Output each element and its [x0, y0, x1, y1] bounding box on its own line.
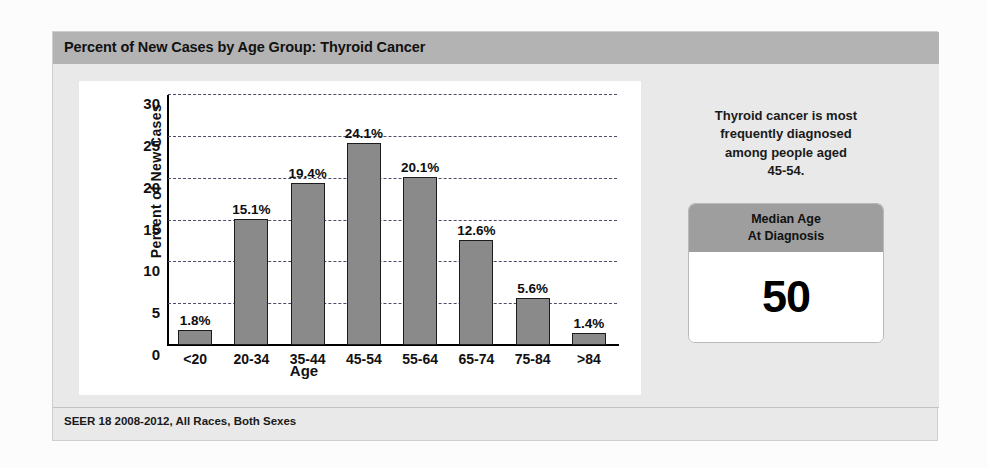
median-age-value: 50: [689, 252, 883, 342]
bar-group: 5.6%75-84: [505, 95, 561, 346]
bar-group: 12.6%65-74: [448, 95, 504, 346]
chart-card: Percent of New Cases by Age Group: Thyro…: [52, 31, 938, 441]
bar-group: 24.1%45-54: [336, 95, 392, 346]
bar-value-label: 12.6%: [457, 223, 495, 238]
plot-area: 051015202530 1.8%<2015.1%20-3419.4%35-44…: [167, 95, 617, 346]
bar-value-label: 24.1%: [345, 126, 383, 141]
bar-group: 15.1%20-34: [223, 95, 279, 346]
bar-value-label: 5.6%: [517, 281, 548, 296]
bar-value-label: 1.8%: [180, 313, 211, 328]
info-blurb: Thyroid cancer is most frequently diagno…: [657, 107, 915, 181]
chart-page: Percent of New Cases by Age Group: Thyro…: [0, 0, 987, 468]
bar-value-label: 20.1%: [401, 160, 439, 175]
bar[interactable]: 20.1%: [403, 177, 437, 345]
info-blurb-line-1: Thyroid cancer is most: [657, 107, 915, 125]
median-age-header-line-1: Median Age: [751, 211, 821, 228]
info-blurb-line-4: 45-54.: [657, 162, 915, 180]
bar[interactable]: 24.1%: [347, 143, 381, 345]
x-axis-title: Age: [79, 362, 529, 379]
bar-value-label: 1.4%: [573, 316, 604, 331]
chart-plot-panel: Percent of New Cases 051015202530 1.8%<2…: [79, 81, 641, 395]
median-age-box-header: Median Age At Diagnosis: [689, 204, 883, 252]
bar-group: 1.4%>84: [561, 95, 617, 346]
bar-group: 1.8%<20: [167, 95, 223, 346]
footer-divider: [53, 407, 939, 408]
page-title: Percent of New Cases by Age Group: Thyro…: [64, 39, 425, 55]
bar[interactable]: 1.4%: [572, 333, 606, 345]
info-blurb-line-3: among people aged: [657, 144, 915, 162]
chart-title-bar: Percent of New Cases by Age Group: Thyro…: [53, 32, 939, 64]
chart-body: Percent of New Cases 051015202530 1.8%<2…: [53, 64, 939, 407]
info-blurb-line-2: frequently diagnosed: [657, 125, 915, 143]
bar-group: 20.1%55-64: [392, 95, 448, 346]
x-axis-tick-label: >84: [577, 351, 601, 367]
median-age-header-line-2: At Diagnosis: [748, 228, 824, 245]
bar[interactable]: 12.6%: [459, 240, 493, 345]
bar[interactable]: 5.6%: [516, 298, 550, 345]
median-age-box: Median Age At Diagnosis 50: [688, 203, 884, 343]
bar[interactable]: 1.8%: [178, 330, 212, 345]
source-note: SEER 18 2008-2012, All Races, Both Sexes: [64, 415, 296, 427]
bar[interactable]: 19.4%: [291, 183, 325, 345]
bar-group: 19.4%35-44: [280, 95, 336, 346]
bar[interactable]: 15.1%: [234, 219, 268, 345]
bar-value-label: 15.1%: [232, 202, 270, 217]
info-panel: Thyroid cancer is most frequently diagno…: [657, 81, 915, 395]
bar-value-label: 19.4%: [288, 166, 326, 181]
